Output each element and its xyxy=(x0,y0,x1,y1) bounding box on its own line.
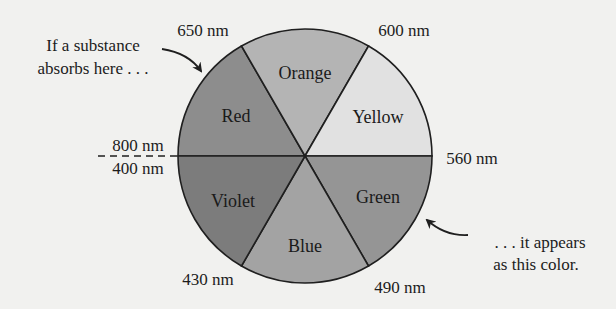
label-yellow: Yellow xyxy=(352,107,403,127)
annotation-absorbs: If a substance absorbs here . . . xyxy=(38,36,201,78)
label-orange: Orange xyxy=(279,63,332,83)
annotation-appears-line2: as this color. xyxy=(493,255,578,274)
label-blue: Blue xyxy=(288,236,322,256)
annotation-appears: . . . it appears as this color. xyxy=(427,220,586,274)
wavelength-400: 400 nm xyxy=(112,159,163,178)
wavelength-490: 490 nm xyxy=(374,278,425,297)
label-violet: Violet xyxy=(211,191,255,211)
wavelength-560: 560 nm xyxy=(446,149,497,168)
wavelength-650: 650 nm xyxy=(177,21,228,40)
diagram-canvas: Red Orange Yellow Green Blue Violet 650 … xyxy=(0,0,616,309)
annotation-absorbs-line1: If a substance xyxy=(46,36,139,55)
label-green: Green xyxy=(356,187,400,207)
annotation-appears-line1: . . . it appears xyxy=(494,233,585,252)
annotation-absorbs-line2: absorbs here . . . xyxy=(38,59,149,78)
label-red: Red xyxy=(222,106,251,126)
wavelength-430: 430 nm xyxy=(182,270,233,289)
arrow-absorbs-icon xyxy=(162,49,201,71)
wavelength-600: 600 nm xyxy=(378,21,429,40)
wavelength-800: 800 nm xyxy=(112,136,163,155)
color-wheel-diagram: Red Orange Yellow Green Blue Violet 650 … xyxy=(0,0,616,309)
arrow-appears-icon xyxy=(427,220,468,235)
